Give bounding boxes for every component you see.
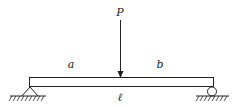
segment-b-label: b (156, 59, 163, 70)
segment-a-label: a (68, 59, 75, 70)
beam (30, 78, 214, 87)
load-label: P (116, 7, 123, 18)
roller-support-icon (196, 87, 229, 101)
load-arrow-icon (118, 20, 124, 78)
pin-support-icon (9, 87, 46, 101)
span-label: ℓ (118, 92, 123, 103)
